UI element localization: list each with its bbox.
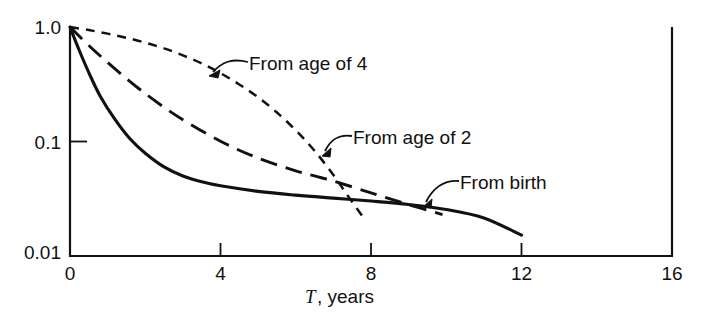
leader-line-from-birth [426,181,459,202]
x-tick-label-4: 4 [215,263,226,284]
y-tick-label-0.01: 0.01 [24,242,61,263]
x-tick-label-12: 12 [511,263,532,284]
annotation-from-age-2: From age of 2 [353,127,471,148]
y-tick-label-0.1: 0.1 [35,132,61,153]
x-tick-label-0: 0 [65,263,76,284]
leader-line-from-age-2 [325,136,352,151]
annotation-from-age-4: From age of 4 [249,53,368,74]
x-axis-ticks [221,243,522,256]
annotation-from-birth: From birth [460,172,547,193]
x-tick-label-16: 16 [661,263,682,284]
x-axis-title: T , years [305,286,374,307]
leader-line-from-age-4 [213,60,248,72]
x-axis-tick-labels: 0481216 [65,263,683,284]
x-axis-title-symbol: T [305,286,317,307]
y-tick-label-1.0: 1.0 [35,17,61,38]
chart-figure: 0481216 1.00.10.01 From age of 4 From ag… [0,0,712,323]
y-axis-tick-labels: 1.00.10.01 [24,17,61,263]
x-tick-label-8: 8 [366,263,377,284]
x-axis-title-units: , years [317,286,374,307]
semilog-survival-chart: 0481216 1.00.10.01 From age of 4 From ag… [0,0,712,323]
